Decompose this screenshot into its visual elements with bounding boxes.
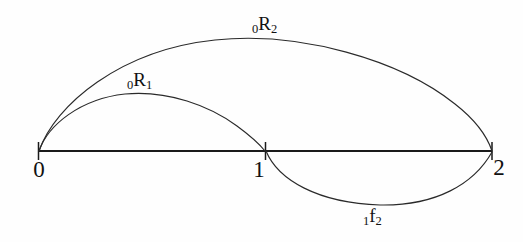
arc-label-r1-suffix: 1 [146,78,152,92]
arc-label-r1-main: R [133,69,146,90]
arc-label-f2-prefix: 1 [363,214,369,228]
arc-label-f2: 1f2 [363,206,382,225]
arc-label-r1-prefix: 0 [127,78,133,92]
arc-label-f2-main: f [369,205,375,226]
arc-label-r2-prefix: 0 [252,22,258,36]
arc-label-r2-suffix: 2 [271,22,277,36]
arc-diagram-figure: 0R2 0R1 1f2 0 1 2 [0,0,523,242]
arc-f2-path [266,151,492,205]
tick-label-1: 1 [249,158,269,181]
arc-label-f2-suffix: 2 [376,214,382,228]
arc-label-r2: 0R2 [252,14,277,33]
arc-label-r2-main: R [258,13,271,34]
arc-r2-path [39,38,492,151]
diagram-canvas [0,0,523,242]
tick-label-2: 2 [489,156,509,179]
arc-label-r1: 0R1 [127,70,152,89]
tick-label-0: 0 [29,158,49,181]
